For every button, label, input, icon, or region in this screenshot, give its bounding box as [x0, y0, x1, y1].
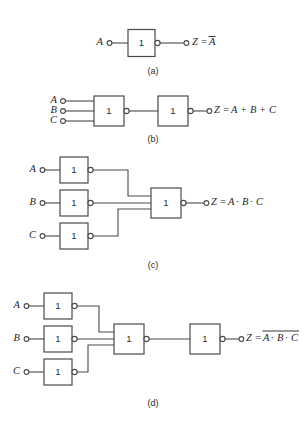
panel-c-output-expression: Z = A · B · C — [211, 196, 264, 207]
panel-a-input-label-A: A — [96, 36, 104, 47]
panel-b-output-term-C: C — [269, 104, 277, 115]
panel-b: A B C 1 1 Z = A + B + C (b) — [50, 94, 277, 144]
panel-d-gate-inverter-invert-bubble — [220, 336, 225, 341]
panel-d-output-term-C: C — [291, 332, 299, 343]
panel-a-gate-1-symbol: 1 — [139, 37, 144, 48]
panel-d-gate-nor-symbol: 1 — [126, 333, 131, 344]
panel-d-input-label-A: A — [13, 299, 21, 310]
panel-a-output-term-A: A — [208, 36, 216, 47]
panel-d-output-op-2: · — [285, 332, 288, 343]
panel-c-output-term-C: C — [256, 196, 264, 207]
panel-b-output-op-2: + — [259, 104, 266, 115]
panel-b-output-term-B: B — [250, 104, 257, 115]
panel-d-gate-nor-invert-bubble — [144, 336, 149, 341]
panel-c-input-terminal-B — [40, 201, 45, 206]
panel-b-gate-2-invert-bubble — [188, 108, 193, 113]
panel-c-input-terminal-C — [40, 234, 45, 239]
panel-b-gate-1-invert-bubble — [124, 108, 129, 113]
panel-c-output-term-A: A — [227, 196, 235, 207]
panel-d-input-label-C: C — [13, 365, 21, 376]
panel-d-input-label-B: B — [14, 332, 21, 343]
panel-c-gate-A-invert-bubble — [88, 167, 93, 172]
panel-b-caption: (b) — [148, 134, 159, 144]
panel-c-gate-B-invert-bubble — [88, 200, 93, 205]
panel-c-output-terminal — [204, 201, 209, 206]
panel-b-input-terminal-C — [61, 119, 66, 124]
panel-b-output-op-1: + — [240, 104, 247, 115]
logic-diagram-figure: A 1 Z = A (a) A B C — [0, 0, 306, 421]
circuit-canvas: A 1 Z = A (a) A B C — [0, 0, 306, 421]
panel-b-output-prefix: Z = — [214, 104, 230, 115]
panel-d-output-terminal — [239, 337, 244, 342]
panel-d-output-expression: Z = A · B · C — [246, 331, 299, 343]
panel-d-gate-B-invert-bubble — [72, 336, 77, 341]
panel-c-gate-A-symbol: 1 — [71, 164, 76, 175]
panel-c-gate-C-invert-bubble — [88, 233, 93, 238]
panel-d-gate-C-invert-bubble — [72, 369, 77, 374]
panel-d-input-terminal-A — [24, 304, 29, 309]
panel-b-input-terminal-A — [61, 99, 66, 104]
panel-d-output-op-1: · — [271, 332, 274, 343]
panel-d-input-terminal-C — [24, 370, 29, 375]
panel-d-route-C — [77, 345, 114, 372]
panel-c-route-A — [93, 170, 151, 196]
panel-b-output-terminal — [207, 109, 212, 114]
panel-d-route-A — [77, 306, 114, 332]
panel-b-gate-2-symbol: 1 — [170, 105, 175, 116]
panel-a-output-expression: Z = A — [192, 36, 216, 47]
panel-d-caption: (d) — [148, 398, 159, 408]
panel-a-input-terminal — [107, 41, 112, 46]
panel-c-output-prefix: Z = — [211, 196, 227, 207]
panel-a: A 1 Z = A (a) — [96, 30, 216, 77]
panel-b-input-terminal-B — [61, 109, 66, 114]
panel-c-gate-B-symbol: 1 — [71, 197, 76, 208]
panel-a-output-prefix: Z = — [192, 36, 208, 47]
panel-c-input-terminal-A — [40, 168, 45, 173]
panel-c-input-label-C: C — [29, 229, 37, 240]
panel-d-input-terminal-B — [24, 337, 29, 342]
panel-b-output-expression: Z = A + B + C — [214, 104, 277, 115]
panel-d-gate-A-invert-bubble — [72, 303, 77, 308]
panel-c-caption: (c) — [148, 260, 159, 270]
panel-c-gate-C-symbol: 1 — [71, 230, 76, 241]
panel-d-gate-inverter-symbol: 1 — [202, 333, 207, 344]
panel-d-output-term-A: A — [262, 332, 270, 343]
panel-c-input-label-A: A — [29, 163, 37, 174]
panel-a-caption: (a) — [148, 66, 159, 76]
panel-a-output-terminal — [184, 41, 189, 46]
panel-a-gate-1-invert-bubble — [155, 40, 160, 45]
panel-c-route-C — [93, 209, 151, 236]
panel-b-gate-1-symbol: 1 — [106, 105, 111, 116]
panel-c: A 1 B 1 C 1 1 Z = A · B — [29, 157, 264, 270]
panel-d-output-term-B: B — [277, 332, 284, 343]
panel-b-input-label-C: C — [50, 114, 58, 125]
panel-d: A 1 B 1 C 1 1 1 Z = — [13, 293, 299, 408]
panel-c-gate-nor-symbol: 1 — [163, 197, 168, 208]
panel-c-gate-nor-invert-bubble — [181, 200, 186, 205]
panel-c-input-label-B: B — [30, 196, 37, 207]
panel-b-output-term-A: A — [230, 104, 238, 115]
panel-d-gate-B-symbol: 1 — [55, 333, 60, 344]
panel-c-output-op-2: · — [250, 196, 253, 207]
panel-d-gate-C-symbol: 1 — [55, 366, 60, 377]
panel-d-output-prefix: Z = — [246, 332, 262, 343]
panel-d-gate-A-symbol: 1 — [55, 300, 60, 311]
panel-c-output-op-1: · — [236, 196, 239, 207]
panel-c-output-term-B: B — [242, 196, 249, 207]
